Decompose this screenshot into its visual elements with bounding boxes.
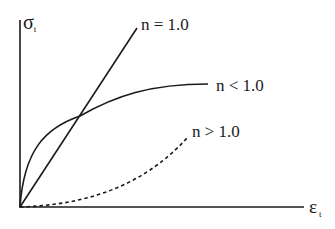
y-axis-label: σt xyxy=(23,11,37,34)
curve-n-equal-1 xyxy=(20,28,137,207)
label-n-greater-1: n > 1.0 xyxy=(192,122,240,141)
label-n-less-1: n < 1.0 xyxy=(216,76,264,95)
stress-strain-diagram: σt εt n = 1.0 n < 1.0 n > 1.0 xyxy=(0,0,335,229)
curve-n-greater-1 xyxy=(20,137,188,207)
x-axis-label: εt xyxy=(309,196,322,219)
label-n-equal-1: n = 1.0 xyxy=(141,15,189,34)
